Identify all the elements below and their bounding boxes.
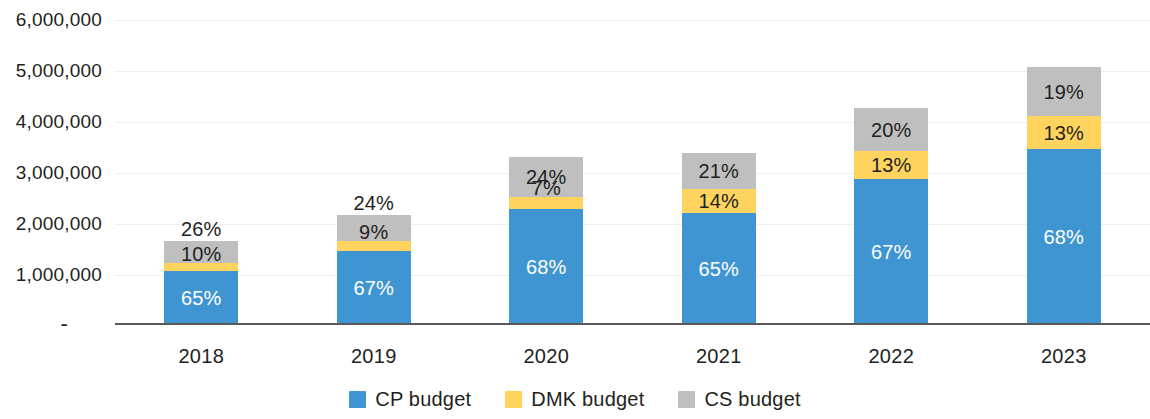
- segment-cp-2019[interactable]: 67%: [337, 251, 411, 325]
- stacked-bar-2019[interactable]: 24% 9% 67%: [337, 215, 411, 325]
- segment-cs-2022[interactable]: 20%: [854, 108, 928, 151]
- bar-series-container: 26% 10% 65% 24% 9%: [115, 0, 1150, 325]
- segment-cp-2021[interactable]: 65%: [682, 213, 756, 325]
- segment-label-cs-2023: 19%: [1043, 82, 1084, 102]
- y-axis-tick-zero: -: [60, 311, 68, 337]
- chart-legend: CP budget DMK budget CS budget: [0, 388, 1150, 411]
- bar-group-2022: 20% 13% 67%: [805, 0, 978, 325]
- segment-label-cs-2018: 26%: [181, 219, 222, 239]
- segment-dmk-2020[interactable]: 7%: [509, 197, 583, 209]
- segment-label-cp-2019: 67%: [353, 278, 394, 298]
- segment-dmk-2021[interactable]: 14%: [682, 189, 756, 213]
- stacked-bar-2023[interactable]: 19% 13% 68%: [1027, 67, 1101, 325]
- x-axis-line: [115, 323, 1150, 325]
- segment-label-cp-2022: 67%: [871, 242, 912, 262]
- bar-group-2021: 21% 14% 65%: [633, 0, 806, 325]
- y-axis-tick-5000000: 5,000,000: [16, 60, 102, 82]
- segment-dmk-2018[interactable]: 10%: [164, 263, 238, 271]
- bar-group-2018: 26% 10% 65%: [115, 0, 288, 325]
- x-axis-tick-2018: 2018: [115, 327, 288, 373]
- legend-item-cs-budget[interactable]: CS budget: [678, 388, 800, 411]
- segment-dmk-2022[interactable]: 13%: [854, 151, 928, 179]
- bar-group-2019: 24% 9% 67%: [288, 0, 461, 325]
- segment-label-dmk-2023: 13%: [1043, 123, 1084, 143]
- stacked-bar-2022[interactable]: 20% 13% 67%: [854, 108, 928, 325]
- segment-label-cs-2019: 24%: [353, 193, 394, 213]
- segment-label-cp-2020: 68%: [526, 257, 567, 277]
- yellow-swatch-icon: [505, 391, 522, 408]
- segment-cp-2020[interactable]: 68%: [509, 209, 583, 325]
- blue-swatch-icon: [349, 391, 366, 408]
- segment-label-dmk-2020: 7%: [532, 178, 561, 198]
- segment-label-cs-2021: 21%: [698, 161, 739, 181]
- segment-cs-2021[interactable]: 21%: [682, 153, 756, 189]
- segment-dmk-2023[interactable]: 13%: [1027, 116, 1101, 149]
- x-axis-tick-2021: 2021: [633, 327, 806, 373]
- segment-cp-2018[interactable]: 65%: [164, 271, 238, 325]
- y-axis-tick-6000000: 6,000,000: [16, 9, 102, 31]
- y-axis: 6,000,000 5,000,000 4,000,000 3,000,000 …: [0, 0, 115, 330]
- stacked-bar-chart: 6,000,000 5,000,000 4,000,000 3,000,000 …: [0, 0, 1150, 419]
- segment-label-dmk-2022: 13%: [871, 155, 912, 175]
- bar-group-2020: 24% 7% 68%: [460, 0, 633, 325]
- x-axis: 2018 2019 2020 2021 2022 2023: [115, 327, 1150, 373]
- legend-label-cs-budget: CS budget: [704, 388, 800, 411]
- stacked-bar-2020[interactable]: 24% 7% 68%: [509, 157, 583, 325]
- segment-dmk-2019[interactable]: 9%: [337, 241, 411, 251]
- x-axis-tick-2019: 2019: [288, 327, 461, 373]
- segment-label-cp-2018: 65%: [181, 288, 222, 308]
- legend-item-dmk-budget[interactable]: DMK budget: [505, 388, 644, 411]
- segment-label-dmk-2021: 14%: [698, 191, 739, 211]
- segment-label-cp-2021: 65%: [698, 259, 739, 279]
- segment-label-dmk-2019: 9%: [359, 222, 388, 242]
- stacked-bar-2021[interactable]: 21% 14% 65%: [682, 153, 756, 325]
- bar-group-2023: 19% 13% 68%: [978, 0, 1150, 325]
- stacked-bar-2018[interactable]: 26% 10% 65%: [164, 241, 238, 325]
- legend-item-cp-budget[interactable]: CP budget: [349, 388, 471, 411]
- y-axis-tick-4000000: 4,000,000: [16, 111, 102, 133]
- y-axis-tick-1000000: 1,000,000: [16, 264, 102, 286]
- x-axis-tick-2023: 2023: [978, 327, 1150, 373]
- y-axis-tick-3000000: 3,000,000: [16, 162, 102, 184]
- grey-swatch-icon: [678, 391, 695, 408]
- segment-cp-2023[interactable]: 68%: [1027, 149, 1101, 325]
- segment-cp-2022[interactable]: 67%: [854, 179, 928, 325]
- segment-label-dmk-2018: 10%: [181, 244, 222, 264]
- y-axis-tick-2000000: 2,000,000: [16, 213, 102, 235]
- legend-label-cp-budget: CP budget: [375, 388, 471, 411]
- segment-label-cs-2022: 20%: [871, 120, 912, 140]
- plot-area: 26% 10% 65% 24% 9%: [115, 0, 1150, 325]
- x-axis-tick-2022: 2022: [805, 327, 978, 373]
- x-axis-tick-2020: 2020: [460, 327, 633, 373]
- segment-cs-2023[interactable]: 19%: [1027, 67, 1101, 116]
- segment-label-cp-2023: 68%: [1043, 227, 1084, 247]
- legend-label-dmk-budget: DMK budget: [531, 388, 644, 411]
